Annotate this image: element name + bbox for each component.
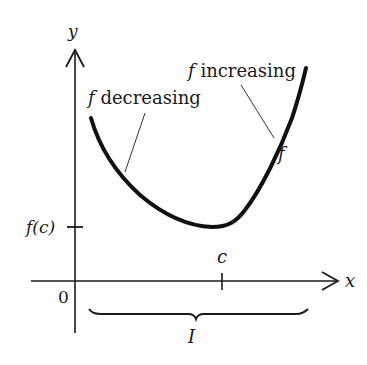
x-tick-label-c: c (217, 246, 227, 267)
diagram-canvas: y x 0 f(c) c f decreasing f increasing f… (0, 0, 367, 365)
leader-line-decreasing (125, 113, 145, 172)
interval-brace (89, 309, 308, 319)
label-f-decreasing: f decreasing (86, 87, 201, 108)
y-tick-label-fc: f(c) (24, 217, 55, 237)
x-axis-label: x (345, 270, 355, 291)
y-axis-label: y (67, 21, 78, 41)
leader-line-increasing (241, 85, 274, 138)
origin-label: 0 (58, 287, 69, 307)
decreasing-text: decreasing (95, 87, 201, 108)
increasing-text: increasing (195, 60, 296, 81)
curve-label-f: f (276, 143, 288, 164)
label-f-increasing: f increasing (186, 60, 296, 81)
interval-label: I (187, 326, 196, 347)
x-axis (31, 272, 338, 290)
